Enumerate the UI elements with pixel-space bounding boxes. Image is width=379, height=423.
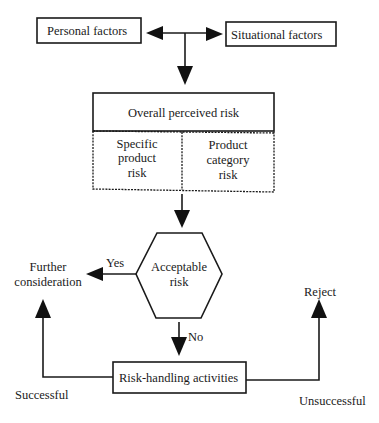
further-consideration-node: Further consideration xyxy=(14,260,82,289)
arrow-down-icon xyxy=(174,210,190,228)
arrow-down-icon xyxy=(177,66,193,85)
factors-connector xyxy=(146,26,223,85)
overall-perceived-risk-node: Overall perceived risk Specific product … xyxy=(93,93,274,192)
no-edge: No xyxy=(171,322,203,356)
yes-label: Yes xyxy=(106,256,124,270)
overall-risk-label: Overall perceived risk xyxy=(128,106,240,120)
risk-handling-node: Risk-handling activities xyxy=(113,362,246,393)
reject-label: Reject xyxy=(304,285,336,299)
product-category-risk-line1: Product xyxy=(209,138,248,152)
arrow-left-icon xyxy=(86,267,103,281)
specific-product-risk-line3: risk xyxy=(128,166,148,180)
product-category-risk-line2: category xyxy=(206,153,250,167)
risk-flow-diagram: Personal factors Situational factors Ove… xyxy=(0,0,379,423)
further-consideration-line1: Further xyxy=(30,260,68,274)
yes-edge: Yes xyxy=(86,256,136,281)
unsuccessful-edge: Unsuccessful xyxy=(246,299,366,408)
arrow-down-icon xyxy=(171,337,187,356)
acceptable-risk-line2: risk xyxy=(170,275,190,289)
specific-product-risk-line2: product xyxy=(118,151,157,165)
successful-edge: Successful xyxy=(15,299,113,402)
risk-to-decision-arrow xyxy=(174,194,190,228)
risk-handling-label: Risk-handling activities xyxy=(119,371,238,385)
arrow-up-icon xyxy=(311,299,327,318)
specific-product-risk-line1: Specific xyxy=(117,137,158,151)
no-label: No xyxy=(188,330,203,344)
product-category-risk-node: Product category risk xyxy=(206,138,250,182)
personal-factors-node: Personal factors xyxy=(37,18,141,43)
personal-factors-label: Personal factors xyxy=(47,24,127,38)
specific-product-risk-node: Specific product risk xyxy=(117,137,158,180)
unsuccessful-label: Unsuccessful xyxy=(299,394,366,408)
further-consideration-line2: consideration xyxy=(14,275,82,289)
situational-factors-label: Situational factors xyxy=(231,28,322,42)
arrow-up-icon xyxy=(35,299,51,318)
reject-node: Reject xyxy=(304,285,336,299)
acceptable-risk-decision: Acceptable risk xyxy=(136,233,222,318)
successful-label: Successful xyxy=(15,388,69,402)
product-category-risk-line3: risk xyxy=(219,168,239,182)
situational-factors-node: Situational factors xyxy=(226,22,336,46)
acceptable-risk-line1: Acceptable xyxy=(151,260,208,274)
arrow-left-icon xyxy=(146,26,163,40)
arrow-right-icon xyxy=(206,27,223,41)
